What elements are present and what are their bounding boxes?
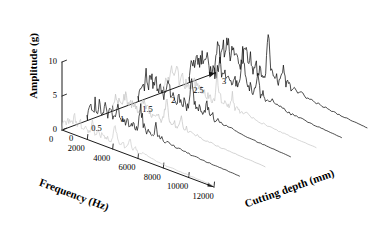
z-tick-label-1_5: 1.5 (142, 104, 153, 114)
y-axis-title: Amplitude (g) (27, 11, 39, 121)
y-tick (62, 94, 67, 96)
z-tick-label-1: 1 (120, 114, 124, 124)
x-tick-label-6000: 6000 (119, 162, 136, 172)
x-tick (113, 144, 114, 149)
x-tick-label-12000: 12000 (192, 191, 213, 201)
x-tick-label-0: 0 (49, 134, 53, 144)
waterfall-chart-figure: Amplitude (g) Frequency (Hz) Cutting dep… (0, 0, 369, 238)
z-tick-label-2_5: 2.5 (193, 85, 204, 95)
x-tick-label-2000: 2000 (68, 143, 85, 153)
x-tick (87, 135, 88, 140)
spectrum-trace (215, 35, 367, 128)
y-tick-label-0: 0 (53, 124, 57, 134)
z-tick-label-0_5: 0.5 (91, 123, 102, 133)
y-tick-label-5: 5 (53, 90, 57, 100)
x-tick-label-8000: 8000 (144, 172, 161, 182)
x-tick-label-4000: 4000 (93, 153, 110, 163)
plot-canvas (0, 0, 369, 238)
y-tick-label-10: 10 (49, 56, 58, 66)
spectrum-trace (190, 46, 342, 137)
y-tick (62, 60, 67, 62)
z-tick-label-0: 0 (69, 133, 73, 143)
x-tick-label-10000: 10000 (167, 181, 188, 191)
z-tick-label-2: 2 (171, 95, 175, 105)
spectrum-trace (139, 68, 291, 157)
z-tick-label-3: 3 (222, 76, 226, 86)
